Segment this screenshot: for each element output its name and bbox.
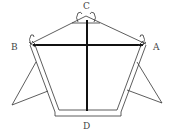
left-wing: [12, 62, 48, 105]
label-c: C: [83, 1, 90, 11]
kite-diagram: C B A D: [0, 0, 171, 137]
hook-icon: [90, 12, 96, 22]
label-b: B: [11, 42, 18, 52]
hook-icon: [77, 12, 83, 22]
label-d: D: [83, 121, 90, 131]
label-a: A: [152, 42, 160, 52]
